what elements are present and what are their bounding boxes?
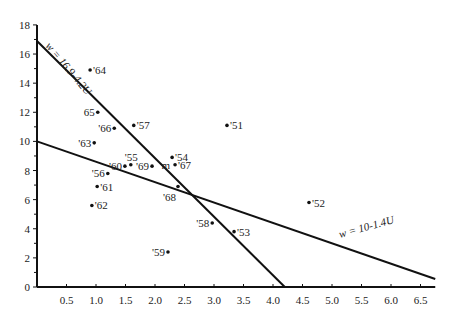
point-label: 65: [84, 106, 96, 118]
point-label: '52: [312, 197, 325, 209]
x-tick-label: 3.5: [237, 294, 251, 306]
y-tick-label: 6: [25, 194, 31, 206]
x-tick-label: 6.0: [384, 294, 398, 306]
y-tick-label: 0: [25, 281, 31, 293]
y-tick-label: 12: [19, 106, 30, 118]
x-tick-label: 3.0: [207, 294, 221, 306]
point-label: '56: [92, 167, 105, 179]
point-label: '69: [136, 160, 149, 172]
x-tick-label: 4.5: [296, 294, 310, 306]
regression-lines: [37, 41, 435, 287]
point-label: '59: [152, 246, 165, 258]
point-label: '66: [98, 122, 111, 134]
x-tick-label: 2.0: [148, 294, 162, 306]
data-point: [166, 250, 170, 254]
data-point: [307, 201, 311, 205]
point-label: '62: [95, 199, 108, 211]
x-tick-label: 6.5: [414, 294, 428, 306]
data-point: [106, 172, 110, 176]
x-tick-label: 2.5: [178, 294, 192, 306]
data-point: [173, 163, 177, 167]
y-tick-label: 2: [25, 252, 31, 264]
point-label: '58: [196, 217, 209, 229]
axes: 0246810121416180.51.01.52.02.53.03.54.04…: [19, 19, 435, 306]
data-point: [176, 185, 180, 189]
y-tick-label: 18: [19, 19, 31, 31]
point-label: '68: [163, 191, 176, 203]
x-tick-label: 1.5: [119, 294, 133, 306]
point-label: '53: [237, 226, 250, 238]
marker-m: m: [161, 159, 170, 171]
point-label: '57: [137, 119, 150, 131]
data-point: [88, 68, 92, 72]
point-label: '63: [78, 137, 91, 149]
y-tick-label: 4: [25, 223, 31, 235]
data-point: [132, 124, 136, 128]
y-tick-label: 10: [19, 135, 31, 147]
point-label: '67: [178, 159, 191, 171]
data-point: [96, 110, 100, 114]
shallow-line-label: w = 10-1.4U: [337, 213, 396, 240]
data-point: [225, 124, 229, 128]
data-point: [95, 185, 99, 189]
point-label: '61: [100, 181, 113, 193]
data-point: [210, 221, 214, 225]
point-label: '60: [109, 160, 122, 172]
x-tick-label: 4.0: [266, 294, 280, 306]
data-point: [150, 164, 154, 168]
y-tick-label: 14: [19, 77, 31, 89]
y-tick-label: 16: [19, 48, 31, 60]
data-point: [129, 163, 133, 167]
point-label: '51: [230, 119, 243, 131]
data-point: [232, 230, 236, 234]
scatter-chart: 0246810121416180.51.01.52.02.53.03.54.04…: [0, 0, 456, 321]
data-point: [90, 204, 94, 208]
x-tick-label: 5.0: [325, 294, 339, 306]
data-point: [112, 126, 116, 130]
data-point: [123, 164, 127, 168]
steep-line-label: w = 16.9-4.2U: [43, 40, 95, 98]
point-label: '64: [93, 64, 106, 76]
y-tick-label: 8: [25, 165, 31, 177]
x-tick-label: 1.0: [89, 294, 103, 306]
data-point: [92, 141, 96, 145]
x-tick-label: 0.5: [60, 294, 74, 306]
data-point: [170, 156, 174, 160]
x-tick-label: 5.5: [355, 294, 369, 306]
